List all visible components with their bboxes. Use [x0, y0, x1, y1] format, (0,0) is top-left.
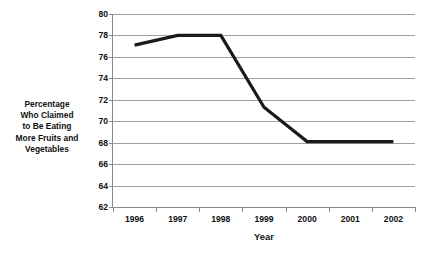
data-series-line — [113, 14, 415, 207]
y-axis-tick-label: 64 — [98, 181, 108, 191]
x-axis-tick-label: 2000 — [298, 214, 317, 224]
y-axis-tick-label: 62 — [98, 202, 108, 212]
x-axis-tick-label: 1997 — [168, 214, 187, 224]
x-axis-tick-label: 1999 — [254, 214, 273, 224]
y-axis-title: Percentage Who Claimed to Be Eating More… — [6, 99, 88, 155]
x-axis-tick-mark — [113, 207, 114, 212]
y-axis-tick-label: 72 — [98, 95, 108, 105]
x-axis-tick-label: 1998 — [211, 214, 230, 224]
x-axis-tick-mark — [372, 207, 373, 212]
y-axis-title-line: Vegetables — [6, 144, 88, 155]
y-axis-tick-label: 68 — [98, 138, 108, 148]
plot-area: 80787674727068666462 1996199719981999200… — [113, 14, 415, 207]
x-axis-tick-mark — [286, 207, 287, 212]
chart-title — [150, 0, 350, 2]
x-axis-tick-label: 1996 — [125, 214, 144, 224]
y-axis-tick-label: 76 — [98, 52, 108, 62]
y-axis-tick-label: 74 — [98, 73, 108, 83]
gridline — [113, 207, 415, 208]
x-axis-title: Year — [113, 231, 415, 242]
x-axis-tick-label: 2002 — [384, 214, 403, 224]
y-axis-title-line: More Fruits and — [6, 133, 88, 144]
x-axis-tick-mark — [415, 207, 416, 212]
y-axis-title-line: to Be Eating — [6, 121, 88, 132]
y-axis-tick-label: 78 — [98, 30, 108, 40]
x-axis-tick-label: 2001 — [341, 214, 360, 224]
x-axis-tick-mark — [329, 207, 330, 212]
x-axis-tick-mark — [156, 207, 157, 212]
x-axis-tick-mark — [199, 207, 200, 212]
y-axis-tick-label: 70 — [98, 116, 108, 126]
y-axis-title-line: Percentage — [6, 99, 88, 110]
y-axis-title-line: Who Claimed — [6, 110, 88, 121]
y-axis-tick-label: 66 — [98, 159, 108, 169]
x-axis-tick-mark — [242, 207, 243, 212]
y-axis-tick-label: 80 — [98, 9, 108, 19]
